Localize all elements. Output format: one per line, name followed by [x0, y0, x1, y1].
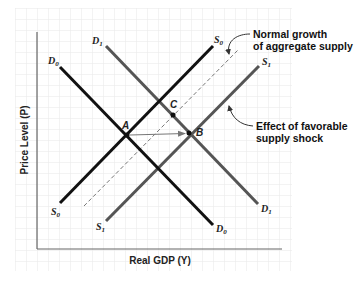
- point-b-marker: [187, 131, 192, 136]
- point-a-marker: [125, 133, 130, 138]
- point-a-label: A: [121, 120, 129, 131]
- ad-as-diagram: A B C D0 D1 S0 S1 S0 S1 D0 D1 Normal gro…: [0, 0, 355, 286]
- point-c-marker: [171, 113, 176, 118]
- point-b-label: B: [196, 127, 203, 138]
- favorable-shock-annotation-line2: supply shock: [256, 132, 323, 144]
- grid-background: [15, 8, 292, 271]
- normal-growth-annotation-line2: of aggregate supply: [253, 40, 353, 52]
- point-c-label: C: [170, 99, 178, 110]
- normal-growth-annotation-line1: Normal growth: [253, 28, 327, 40]
- x-axis-label: Real GDP (Y): [129, 255, 191, 266]
- y-axis-label: Price Level (P): [19, 106, 30, 175]
- favorable-shock-annotation-line1: Effect of favorable: [256, 120, 348, 132]
